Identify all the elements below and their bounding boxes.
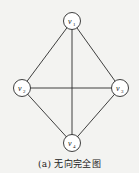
node-v4-label: v [68,139,72,148]
graph-diagram: v 1 v 2 v 3 v 4 [0,0,139,173]
node-v3: v 3 [112,80,129,97]
node-v4: v 4 [64,135,81,152]
edges-group [22,21,120,143]
node-v1-label: v [68,17,72,26]
node-v2: v 2 [14,80,31,97]
node-v3-label: v [116,84,120,93]
node-v2-label: v [18,84,22,93]
edge-v2-v4 [22,88,72,143]
figure-canvas: v 1 v 2 v 3 v 4 (a) 无向完全图 [0,0,139,173]
figure-caption: (a) 无向完全图 [0,157,139,170]
edge-v1-v2 [22,21,72,88]
edge-v3-v4 [72,88,120,143]
node-v1: v 1 [64,13,81,30]
edge-v1-v3 [72,21,120,88]
